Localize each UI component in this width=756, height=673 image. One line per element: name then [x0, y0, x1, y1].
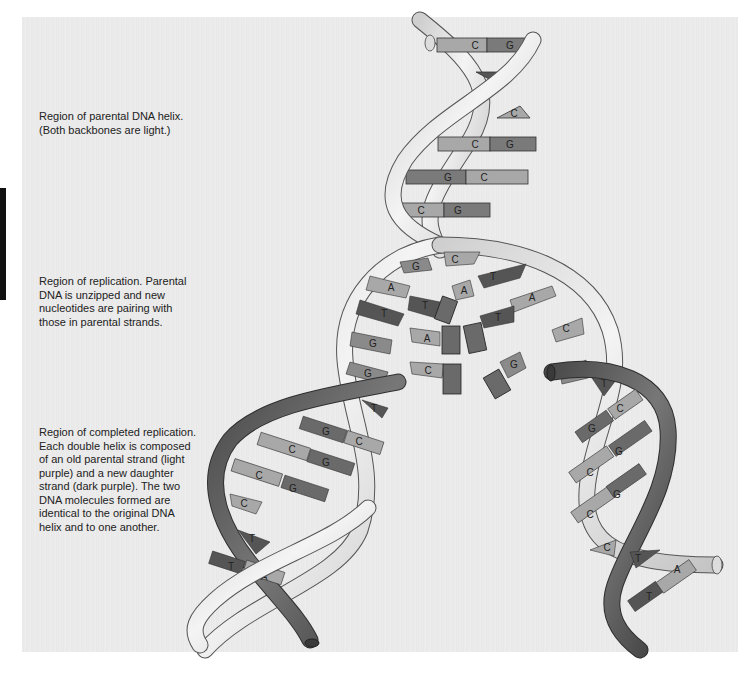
right-daughter-helix: G C C G C G C T T A [547, 365, 696, 650]
strand-end-cap [305, 639, 319, 647]
svg-text:T: T [490, 271, 496, 282]
parental-base-pair: G C [406, 170, 528, 184]
svg-text:T: T [422, 300, 428, 311]
strand-end-cap [712, 556, 722, 574]
svg-text:C: C [586, 467, 593, 478]
svg-text:C: C [424, 365, 431, 376]
svg-text:C: C [255, 470, 262, 481]
free-nucleotides: T A A T C G [408, 280, 526, 399]
svg-text:A: A [424, 333, 431, 344]
svg-text:G: G [364, 368, 372, 379]
svg-text:G: G [322, 457, 330, 468]
svg-text:A: A [461, 285, 468, 296]
svg-text:G: G [506, 40, 514, 51]
svg-text:A: A [529, 292, 536, 303]
parental-base-pair: C G [396, 203, 490, 217]
svg-text:C: C [355, 436, 362, 447]
svg-text:G: G [615, 446, 623, 457]
svg-text:C: C [451, 254, 458, 265]
svg-text:C: C [240, 498, 247, 509]
parental-base-pair: C [497, 106, 530, 119]
svg-text:C: C [471, 139, 478, 150]
parental-helix: C G T C C G G C C G [393, 20, 536, 250]
parental-base-pair: C G [437, 38, 527, 52]
svg-text:G: G [588, 423, 596, 434]
svg-text:A: A [388, 282, 395, 293]
svg-text:G: G [444, 172, 452, 183]
svg-text:G: G [506, 139, 514, 150]
svg-text:T: T [635, 553, 641, 564]
svg-text:C: C [417, 205, 424, 216]
svg-text:C: C [586, 509, 593, 520]
svg-text:G: G [454, 205, 462, 216]
svg-text:T: T [495, 312, 501, 323]
daughter-base-pair: G C [299, 416, 384, 454]
svg-text:T: T [228, 561, 234, 572]
svg-text:T: T [249, 533, 255, 544]
svg-text:T: T [646, 591, 652, 602]
svg-text:C: C [603, 542, 610, 553]
strand-end-cap [425, 35, 435, 51]
svg-text:A: A [674, 564, 681, 575]
parental-base-pair: C [438, 137, 536, 151]
svg-text:C: C [480, 172, 487, 183]
daughter-base-pair: C [230, 494, 262, 514]
svg-text:C: C [471, 40, 478, 51]
svg-text:C: C [616, 403, 623, 414]
svg-text:G: G [412, 261, 420, 272]
svg-text:G: G [289, 483, 297, 494]
daughter-base-pair: C G [231, 459, 329, 502]
strand-end-cap [547, 365, 555, 381]
svg-text:G: G [322, 426, 330, 437]
svg-text:G: G [613, 489, 621, 500]
dna-replication-illustration: C G T C C G G C C G [0, 0, 756, 673]
svg-text:T: T [371, 403, 377, 414]
svg-text:T: T [381, 308, 387, 319]
svg-text:G: G [510, 359, 518, 370]
left-daughter-helix: G C C G C G C T T A [195, 382, 398, 647]
svg-text:G: G [369, 338, 377, 349]
svg-text:C: C [510, 108, 517, 119]
svg-text:C: C [562, 323, 569, 334]
svg-text:C: C [288, 444, 295, 455]
